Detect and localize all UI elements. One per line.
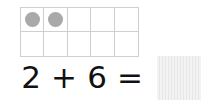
equation: 2 + 6 = xyxy=(20,60,152,94)
ten-frame-cell xyxy=(44,32,67,56)
ten-frame-cell xyxy=(68,8,91,32)
ten-frame-cell xyxy=(21,32,44,56)
ten-frame-cell xyxy=(44,8,67,32)
ten-frame-cell xyxy=(91,8,114,32)
ten-frame-cell xyxy=(68,32,91,56)
answer-box[interactable] xyxy=(157,56,201,100)
ten-frame-cell xyxy=(115,32,138,56)
counter-dot-icon xyxy=(25,12,40,27)
equals-sign: = xyxy=(108,60,152,94)
ten-frame-cell xyxy=(21,8,44,32)
addend-b: 6 xyxy=(86,60,108,94)
ten-frame xyxy=(20,7,139,57)
counter-dot-icon xyxy=(48,12,63,27)
ten-frame-cell xyxy=(115,8,138,32)
addend-a: 2 xyxy=(20,60,42,94)
ten-frame-cell xyxy=(91,32,114,56)
plus-sign: + xyxy=(42,60,86,94)
